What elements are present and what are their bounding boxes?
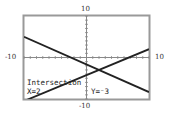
intersection-overlay: Intersection X=2	[27, 78, 81, 96]
intersection-y: Y=⁻3	[91, 87, 109, 96]
y-max-label: 10	[81, 5, 90, 13]
intersection-x: X=2	[27, 87, 81, 96]
x-max-label: 10	[155, 53, 164, 61]
calculator-graph	[0, 0, 172, 117]
y-min-label: -10	[79, 102, 90, 110]
x-min-label: -10	[5, 53, 16, 61]
intersection-title: Intersection	[27, 78, 81, 87]
